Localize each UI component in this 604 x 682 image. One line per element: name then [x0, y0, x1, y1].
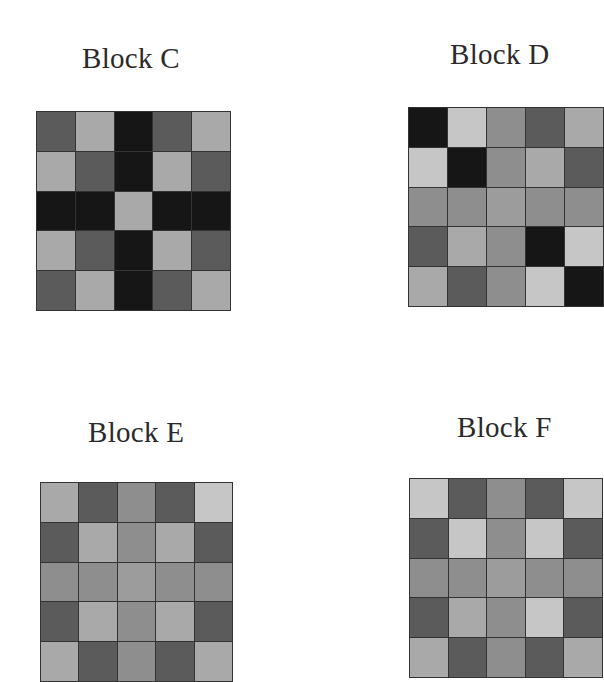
quilt-patch [487, 479, 525, 518]
quilt-patch [156, 642, 193, 681]
quilt-patch [449, 519, 487, 558]
quilt-patch [409, 267, 447, 306]
block-c-title: Block C [82, 42, 180, 75]
quilt-patch [410, 519, 448, 558]
quilt-patch [41, 563, 78, 602]
quilt-patch [526, 638, 564, 677]
quilt-patch [118, 483, 155, 522]
quilt-patch [153, 271, 191, 310]
quilt-patch [115, 152, 153, 191]
quilt-patch [76, 271, 114, 310]
block-d-title: Block D [450, 38, 550, 71]
quilt-patch [79, 483, 116, 522]
quilt-patch [115, 271, 153, 310]
quilt-patch [156, 523, 193, 562]
quilt-patch [449, 479, 487, 518]
quilt-patch [448, 108, 486, 147]
quilt-patch [41, 642, 78, 681]
quilt-patch [565, 188, 603, 227]
quilt-patch [564, 559, 602, 598]
quilt-patch [118, 523, 155, 562]
block-e-title: Block E [88, 416, 184, 449]
quilt-patch [153, 152, 191, 191]
quilt-patch [526, 559, 564, 598]
quilt-patch [118, 563, 155, 602]
quilt-patch [195, 642, 232, 681]
quilt-patch [192, 231, 230, 270]
quilt-patch [156, 483, 193, 522]
quilt-patch [564, 638, 602, 677]
quilt-patch [409, 227, 447, 266]
quilt-patch [37, 231, 75, 270]
quilt-patch [448, 227, 486, 266]
quilt-patch [115, 112, 153, 151]
quilt-patch [192, 271, 230, 310]
quilt-patch [76, 112, 114, 151]
quilt-patch [565, 227, 603, 266]
quilt-patch [487, 227, 525, 266]
quilt-patch [41, 523, 78, 562]
quilt-patch [79, 523, 116, 562]
quilt-patch [76, 231, 114, 270]
quilt-patch [526, 598, 564, 637]
quilt-patch [153, 231, 191, 270]
block-f-quilt [409, 478, 603, 678]
quilt-patch [526, 188, 564, 227]
quilt-patch [118, 642, 155, 681]
quilt-patch [192, 152, 230, 191]
quilt-patch [156, 602, 193, 641]
quilt-patch [79, 642, 116, 681]
quilt-patch [37, 152, 75, 191]
block-d-quilt [408, 107, 604, 307]
quilt-patch [487, 638, 525, 677]
quilt-patch [153, 112, 191, 151]
quilt-patch [79, 563, 116, 602]
quilt-patch [564, 598, 602, 637]
quilt-patch [487, 148, 525, 187]
quilt-patch [37, 271, 75, 310]
quilt-patch [564, 479, 602, 518]
quilt-patch [487, 108, 525, 147]
quilt-patch [410, 479, 448, 518]
quilt-patch [409, 108, 447, 147]
quilt-patch [526, 148, 564, 187]
quilt-patch [410, 559, 448, 598]
quilt-patch [195, 602, 232, 641]
quilt-patch [565, 267, 603, 306]
quilt-patch [37, 192, 75, 231]
quilt-patch [565, 148, 603, 187]
quilt-patch [564, 519, 602, 558]
quilt-patch [487, 519, 525, 558]
quilt-patch [115, 192, 153, 231]
quilt-patch [526, 227, 564, 266]
quilt-patch [487, 188, 525, 227]
quilt-patch [192, 112, 230, 151]
quilt-patch [526, 479, 564, 518]
quilt-patch [565, 108, 603, 147]
quilt-patch [153, 192, 191, 231]
quilt-patch [526, 267, 564, 306]
quilt-patch [449, 559, 487, 598]
quilt-patch [156, 563, 193, 602]
quilt-patch [449, 638, 487, 677]
quilt-patch [448, 267, 486, 306]
quilt-patch [195, 483, 232, 522]
block-c-quilt [36, 111, 231, 311]
block-e-quilt [40, 482, 233, 682]
quilt-patch [76, 152, 114, 191]
quilt-patch [410, 638, 448, 677]
quilt-patch [41, 602, 78, 641]
quilt-patch [487, 559, 525, 598]
quilt-patch [409, 188, 447, 227]
quilt-patch [195, 563, 232, 602]
block-f-title: Block F [457, 411, 552, 444]
quilt-patch [76, 192, 114, 231]
quilt-patch [37, 112, 75, 151]
quilt-patch [448, 148, 486, 187]
quilt-patch [115, 231, 153, 270]
quilt-patch [449, 598, 487, 637]
quilt-patch [118, 602, 155, 641]
quilt-patch [526, 519, 564, 558]
quilt-patch [487, 267, 525, 306]
quilt-patch [526, 108, 564, 147]
